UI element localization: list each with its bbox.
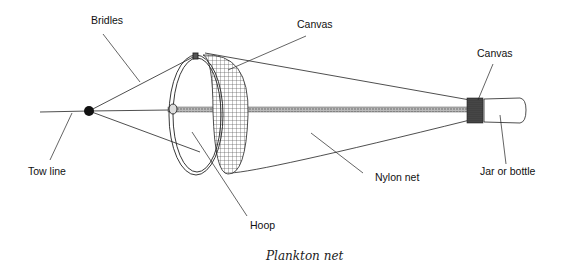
- label-hoop: Hoop: [250, 220, 275, 231]
- plankton-net-diagram: [0, 0, 568, 264]
- bridles: [89, 56, 200, 152]
- label-canvas-hoop: Canvas: [297, 19, 333, 30]
- hoop-canvas-band: [203, 55, 248, 174]
- label-nylon-net: Nylon net: [375, 172, 419, 183]
- label-canvas-jar: Canvas: [477, 48, 513, 59]
- tow-ball: [84, 106, 94, 116]
- figure-caption: Plankton net: [266, 250, 343, 262]
- leader-lines: [50, 34, 506, 216]
- jar-canvas-band: [467, 98, 483, 123]
- label-tow-line: Tow line: [28, 166, 66, 177]
- label-bridles: Bridles: [91, 15, 123, 26]
- label-jar-or-bottle: Jar or bottle: [480, 166, 535, 177]
- jar-or-bottle: [484, 98, 526, 123]
- tow-line: [40, 111, 89, 112]
